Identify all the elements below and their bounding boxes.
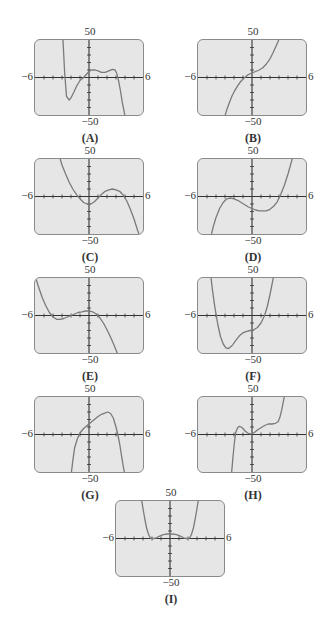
x-max-label: 6 — [145, 308, 151, 320]
plot-area — [198, 278, 306, 353]
graph-frame — [197, 396, 307, 473]
x-min-label: −6 — [178, 70, 196, 82]
y-min-label: −50 — [237, 234, 269, 246]
x-min-label: −6 — [15, 308, 33, 320]
graph-panel: 50−50−66(G) — [20, 376, 170, 496]
y-max-label: 50 — [159, 486, 183, 498]
graph-frame — [197, 158, 307, 235]
y-min-label: −50 — [237, 115, 269, 127]
x-max-label: 6 — [145, 189, 151, 201]
graph-frame — [34, 277, 144, 354]
y-max-label: 50 — [241, 263, 265, 275]
y-max-label: 50 — [78, 144, 102, 156]
plot-area — [116, 501, 224, 576]
y-min-label: −50 — [237, 353, 269, 365]
function-curve — [71, 412, 125, 472]
y-max-label: 50 — [241, 144, 265, 156]
graph-panel: 50−50−66(F) — [183, 257, 331, 377]
graph-panel: 50−50−66(I) — [101, 480, 251, 600]
graph-frame — [115, 500, 225, 577]
graph-frame — [197, 39, 307, 116]
x-max-label: 6 — [145, 70, 151, 82]
x-max-label: 6 — [308, 189, 314, 201]
y-max-label: 50 — [78, 263, 102, 275]
x-min-label: −6 — [15, 189, 33, 201]
plot-area — [35, 397, 143, 472]
graph-panel: 50−50−66(H) — [183, 376, 331, 496]
plot-area — [35, 278, 143, 353]
graph-frame — [34, 396, 144, 473]
y-max-label: 50 — [241, 382, 265, 394]
x-max-label: 6 — [226, 531, 232, 543]
plot-area — [198, 397, 306, 472]
graph-panel: 50−50−66(B) — [183, 19, 331, 139]
function-curve — [211, 278, 274, 349]
x-min-label: −6 — [15, 427, 33, 439]
y-max-label: 50 — [78, 382, 102, 394]
x-max-label: 6 — [308, 308, 314, 320]
x-max-label: 6 — [308, 70, 314, 82]
x-min-label: −6 — [15, 70, 33, 82]
plot-area — [35, 40, 143, 115]
graph-panel: 50−50−66(A) — [20, 19, 170, 139]
graph-frame — [34, 39, 144, 116]
graph-frame — [197, 277, 307, 354]
plot-area — [35, 159, 143, 234]
y-max-label: 50 — [241, 25, 265, 37]
y-max-label: 50 — [78, 25, 102, 37]
graph-label: (I) — [155, 592, 187, 607]
x-min-label: −6 — [178, 189, 196, 201]
y-min-label: −50 — [74, 353, 106, 365]
graph-panel: 50−50−66(C) — [20, 138, 170, 258]
y-min-label: −50 — [155, 576, 187, 588]
plot-area — [198, 40, 306, 115]
graph-panel: 50−50−66(D) — [183, 138, 331, 258]
x-max-label: 6 — [308, 427, 314, 439]
y-min-label: −50 — [74, 115, 106, 127]
plot-area — [198, 159, 306, 234]
graph-frame — [34, 158, 144, 235]
graph-panel: 50−50−66(E) — [20, 257, 170, 377]
x-max-label: 6 — [145, 427, 151, 439]
y-min-label: −50 — [74, 234, 106, 246]
x-min-label: −6 — [178, 427, 196, 439]
x-min-label: −6 — [178, 308, 196, 320]
x-min-label: −6 — [96, 531, 114, 543]
